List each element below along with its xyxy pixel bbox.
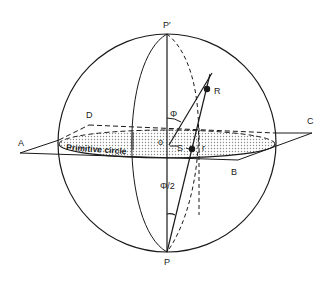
label-angle-half-phi: Φ/2 xyxy=(160,181,175,191)
label-corner-C: C xyxy=(307,116,314,126)
point-S-marker xyxy=(189,146,195,152)
label-corner-D: D xyxy=(86,110,93,120)
label-north-pole: P′ xyxy=(163,20,171,30)
label-point-R: R xyxy=(214,86,221,96)
label-corner-A: A xyxy=(18,138,24,148)
angle-half-phi-arc xyxy=(167,214,175,215)
label-angle-phi: Φ xyxy=(170,109,177,119)
label-point-r: r xyxy=(202,143,205,153)
label-corner-B: B xyxy=(231,167,237,177)
label-south-pole: P xyxy=(164,257,170,267)
label-origin: o xyxy=(158,137,163,147)
stereographic-projection-diagram: P′ P R S r o A B C D Primitive circle Φ … xyxy=(0,0,328,282)
label-point-S: S xyxy=(177,143,183,153)
projection-ray-P-to-R xyxy=(167,74,210,252)
plane-edge-DA-visible xyxy=(20,140,59,153)
point-R-marker xyxy=(204,86,210,92)
